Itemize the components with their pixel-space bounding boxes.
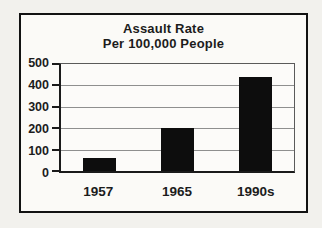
chart-title: Assault Rate Per 100,000 People: [21, 21, 306, 51]
x-axis: 195719651990s: [59, 184, 295, 199]
y-tick-mark: [52, 170, 59, 172]
y-tick-mark: [52, 106, 59, 108]
chart-frame: Assault Rate Per 100,000 People 01002003…: [19, 13, 308, 213]
y-tick-label: 200: [28, 122, 49, 136]
chart-title-line-1: Assault Rate: [21, 21, 306, 36]
y-tick-mark: [52, 63, 59, 65]
chart-title-line-2: Per 100,000 People: [21, 36, 306, 51]
bar: [83, 158, 116, 171]
x-tick-label: 1957: [59, 184, 138, 199]
y-tick-label: 500: [28, 56, 49, 70]
x-tick-label: 1965: [138, 184, 217, 199]
y-tick-label: 0: [42, 166, 49, 180]
y-tick-label: 400: [28, 78, 49, 92]
page-background: Assault Rate Per 100,000 People 01002003…: [0, 0, 322, 228]
x-tick-label: 1990s: [216, 184, 295, 199]
y-tick-label: 100: [28, 144, 49, 158]
plot-area: [59, 63, 295, 173]
bar: [239, 77, 272, 171]
bar: [161, 128, 194, 171]
y-tick-mark: [52, 127, 59, 129]
y-axis: 0100200300400500: [21, 63, 53, 173]
y-tick-mark: [52, 149, 59, 151]
y-tick-mark: [52, 84, 59, 86]
y-tick-label: 300: [28, 100, 49, 114]
